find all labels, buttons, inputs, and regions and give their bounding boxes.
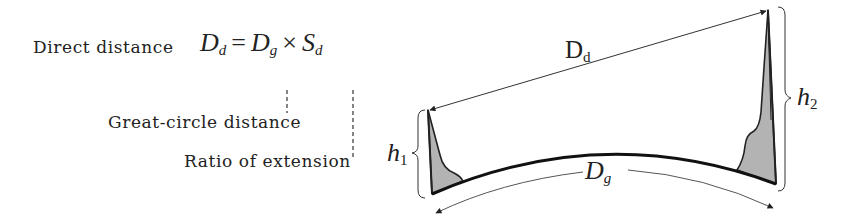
h1-brace	[412, 110, 425, 198]
great-circle-distance-label: Dg	[585, 156, 611, 187]
direct-distance-arrow	[430, 11, 766, 110]
h1-label: h1	[387, 138, 408, 169]
direct-distance-label: Dd	[565, 36, 591, 66]
h2-brace	[778, 7, 791, 191]
distance-diagram	[0, 0, 843, 224]
left-mountain	[428, 110, 463, 194]
h2-label: h2	[797, 82, 818, 113]
